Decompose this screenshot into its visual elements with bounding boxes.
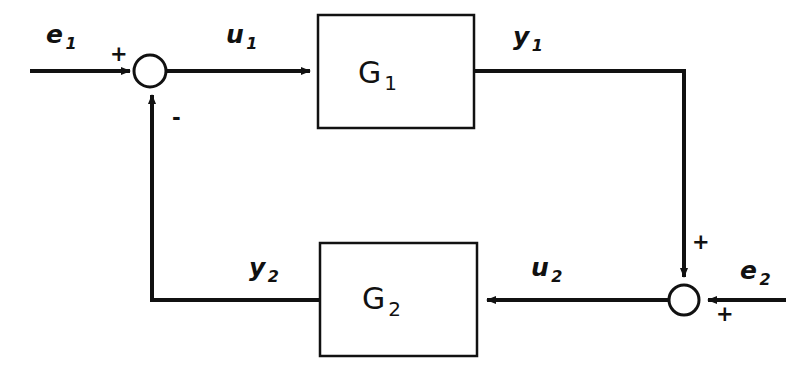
signal-label-u1: u1	[226, 22, 256, 47]
sign-plus-sum2-right: +	[716, 304, 734, 325]
summing-junction-2	[669, 285, 699, 315]
block-g2-label: G2	[362, 284, 398, 314]
block-g1-label: G1	[358, 58, 394, 88]
sign-minus-sum1-feedback: -	[172, 108, 181, 129]
signal-label-y2: y2	[249, 255, 277, 280]
signal-label-u2: u2	[531, 255, 561, 280]
signal-label-y1: y1	[513, 24, 541, 49]
block-diagram-canvas: G1 G2 e1 u1 y1 e2 u2 y2 + - + +	[0, 0, 788, 371]
signal-label-e2: e2	[740, 258, 769, 283]
sign-plus-sum2-top: +	[692, 232, 710, 253]
summing-junction-1	[134, 55, 166, 87]
signal-label-e1: e1	[46, 22, 75, 47]
sign-plus-sum1-input: +	[110, 44, 128, 65]
signal-line-y1	[474, 71, 684, 277]
